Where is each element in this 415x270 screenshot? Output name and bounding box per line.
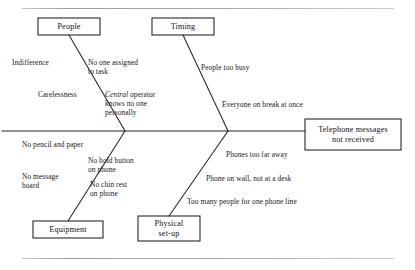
cause-label-people-4: Central operator knows no one personally (105, 90, 155, 118)
category-box-physical-setup[interactable]: Physical set-up (138, 216, 200, 241)
category-box-timing[interactable]: Timing (152, 18, 214, 35)
cause-label-equipment-2: No hold button on phone (88, 156, 134, 174)
cause-label-timing-2: Everyone on break at once (222, 100, 303, 109)
cause-label-timing-1: People too busy (201, 63, 249, 72)
category-box-people[interactable]: People (38, 18, 100, 35)
cause-label-people-1: Indifference (12, 58, 49, 67)
cause-label-physical-setup-1: Phones too far away (226, 150, 288, 159)
cause-label-equipment-3: No message board (22, 172, 59, 190)
cause-label-physical-setup-3: Too many people for one phone line (187, 197, 297, 206)
cause-label-equipment-4: No chin rest on phone (90, 180, 127, 198)
category-box-equipment[interactable]: Equipment (33, 221, 103, 238)
cause-label-equipment-1: No pencil and paper (22, 140, 83, 149)
cause-label-people-2: No one assigned to task (88, 58, 138, 76)
cause-label-people-3: Carelessness (38, 90, 77, 99)
effect-box[interactable]: Telephone messages not received (305, 119, 401, 150)
cause-label-physical-setup-2: Phone on wall, not at a desk (206, 174, 291, 183)
fishbone-diagram: People Timing Equipment Physical set-up … (0, 0, 415, 270)
